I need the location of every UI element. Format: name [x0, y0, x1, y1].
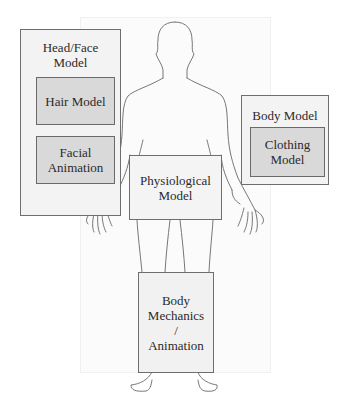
body-mechanics-animation-box: Body Mechanics / Animation — [138, 272, 214, 373]
clothing-model-box: Clothing Model — [250, 127, 325, 177]
head-face-model-box: Head/Face Model Hair Model Facial Animat… — [20, 29, 121, 216]
hair-model-box: Hair Model — [36, 77, 115, 125]
body-model-label: Body Model — [242, 96, 328, 123]
physiological-model-label: Physiological Model — [140, 173, 211, 203]
facial-animation-label: Facial Animation — [48, 145, 104, 175]
body-model-box: Body Model Clothing Model — [241, 95, 329, 185]
physiological-model-box: Physiological Model — [129, 155, 222, 220]
clothing-model-label: Clothing Model — [265, 137, 311, 167]
head-face-model-label: Head/Face Model — [21, 30, 120, 70]
body-mechanics-animation-label: Body Mechanics / Animation — [148, 293, 204, 353]
hair-model-label: Hair Model — [45, 94, 105, 109]
facial-animation-box: Facial Animation — [36, 136, 115, 184]
